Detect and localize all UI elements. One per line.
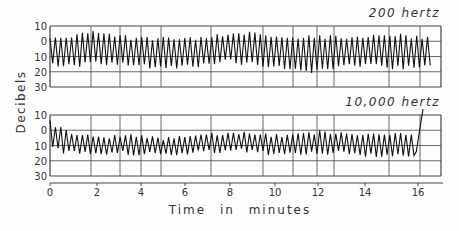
x-tick-label: 16 xyxy=(412,187,425,198)
waveform-line xyxy=(50,109,423,157)
y-tick-label: 0 xyxy=(41,36,47,47)
x-tick-label: 2 xyxy=(94,187,100,198)
waveform-line xyxy=(50,31,430,73)
panel-1: 100102030 xyxy=(34,21,441,93)
x-tick-label: 14 xyxy=(359,187,372,198)
chart-figure: 100102030100102030 0246810121416 Decibel… xyxy=(0,0,459,231)
x-axis-label: Time in minutes xyxy=(168,203,312,217)
x-tick-label: 12 xyxy=(312,187,325,198)
y-tick-label: 0 xyxy=(41,125,47,136)
x-tick-label: 4 xyxy=(138,187,144,198)
y-tick-label: 20 xyxy=(34,156,47,167)
y-axis-label: Decibels xyxy=(14,70,28,133)
panel-title-200hz: 200 hertz xyxy=(369,6,440,20)
y-tick-label: 30 xyxy=(34,171,47,182)
y-tick-label: 10 xyxy=(34,141,47,152)
y-tick-label: 10 xyxy=(34,52,47,63)
x-tick-label: 6 xyxy=(182,187,188,198)
y-tick-label: 20 xyxy=(34,67,47,78)
panel-2: 100102030 xyxy=(34,109,441,182)
decibel-time-chart: 100102030100102030 0246810121416 Decibel… xyxy=(0,0,459,231)
y-tick-label: 10 xyxy=(34,110,47,121)
y-tick-label: 30 xyxy=(34,82,47,93)
y-tick-label: 10 xyxy=(34,21,47,32)
x-tick-label: 8 xyxy=(227,187,233,198)
x-tick-label: 10 xyxy=(269,187,282,198)
panel-title-10000hz: 10,000 hertz xyxy=(345,95,440,109)
x-tick-label: 0 xyxy=(47,187,53,198)
